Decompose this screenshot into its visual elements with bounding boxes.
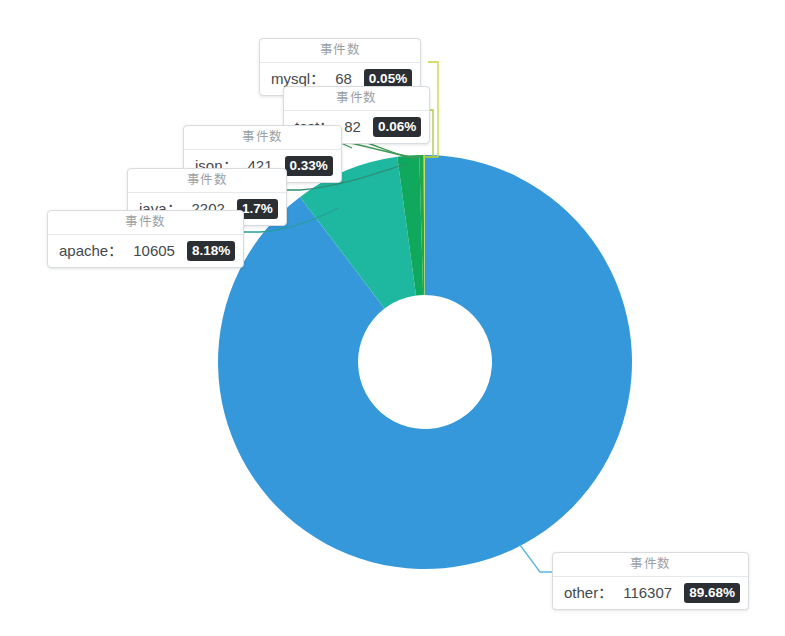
tooltip-percent-badge: 89.68% — [684, 583, 740, 604]
tooltip-percent-badge: 8.18% — [187, 241, 235, 262]
tooltip-percent-badge: 0.06% — [373, 117, 421, 138]
tooltip-value: 116307 — [623, 585, 672, 600]
tooltip-header: 事件数 — [184, 126, 341, 150]
tooltip-key: apache： — [59, 243, 123, 258]
tooltip-key: other： — [564, 585, 613, 600]
tooltip-header: 事件数 — [48, 211, 243, 235]
tooltip-header: 事件数 — [553, 553, 748, 577]
tooltip-percent-badge: 0.33% — [285, 156, 333, 177]
tooltip-other[interactable]: 事件数 other： 116307 89.68% — [552, 552, 749, 610]
tooltip-value: 82 — [344, 119, 361, 134]
chart-canvas: 事件数 mysql： 68 0.05% 事件数 test： 82 0.06% 事… — [0, 0, 785, 636]
leader-line-other — [520, 545, 556, 572]
tooltip-value: 10605 — [133, 243, 175, 258]
tooltip-header: 事件数 — [260, 39, 420, 63]
tooltip-key: mysql： — [271, 71, 325, 86]
tooltip-value: 68 — [335, 71, 352, 86]
tooltip-apache[interactable]: 事件数 apache： 10605 8.18% — [47, 210, 244, 268]
tooltip-body: apache： 10605 8.18% — [48, 235, 243, 268]
tooltip-body: other： 116307 89.68% — [553, 577, 748, 610]
tooltip-header: 事件数 — [128, 169, 286, 193]
tooltip-header: 事件数 — [284, 87, 429, 111]
